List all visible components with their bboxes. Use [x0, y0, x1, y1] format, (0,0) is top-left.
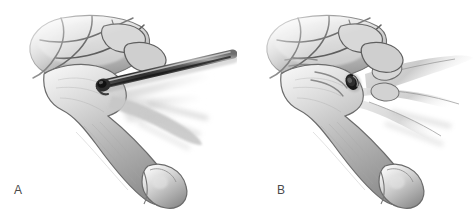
- panel-label-b: B: [277, 184, 285, 196]
- panel-b: B: [237, 0, 474, 213]
- panel-a-illustration: [0, 0, 237, 213]
- panel-label-a: A: [14, 184, 22, 196]
- panel-b-illustration: [237, 0, 474, 213]
- panel-a: A: [0, 0, 237, 213]
- figure-root: A: [0, 0, 474, 213]
